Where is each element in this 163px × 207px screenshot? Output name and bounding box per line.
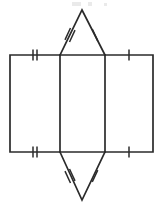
rectangle-outline — [10, 55, 153, 152]
tick-mark-layer — [33, 28, 129, 183]
triangular-prism-net — [0, 0, 163, 207]
tick-top-triangle-right-slant — [92, 29, 98, 41]
net-rectangle-group — [10, 55, 153, 152]
cropped-text-smudge-1 — [72, 2, 81, 6]
cropped-text-smudge-3 — [104, 3, 107, 6]
cropped-text-smudge-2 — [88, 2, 92, 6]
top-triangle-sides — [60, 10, 105, 55]
tick-top-triangle-right-slant-stroke-1 — [92, 29, 98, 41]
top-triangle-group — [60, 10, 105, 55]
geometry-figure-canvas — [0, 0, 163, 207]
